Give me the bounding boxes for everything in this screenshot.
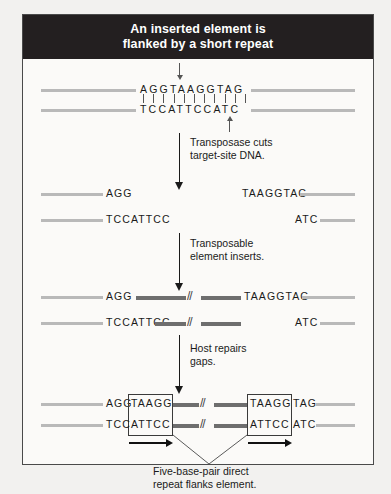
repaired-left-bottom-flank: TCC: [106, 419, 131, 430]
figure-transposon-insertion: An inserted element is flanked by a shor…: [0, 0, 391, 494]
step-3-label-line-2: gaps.: [190, 355, 247, 368]
inserted-left-top-host-dna: [41, 296, 103, 299]
figure-title-line-1: An inserted element is: [130, 22, 266, 37]
transposable-element-bottom-right: [201, 322, 241, 326]
figure-caption-line-2: repeat flanks element.: [153, 478, 256, 491]
step-1-arrow-head: [175, 182, 183, 190]
repaired-element-break-bottom: //: [200, 417, 205, 431]
repaired-left-top-host-dna: [41, 403, 103, 406]
step-2-label: Transposable element inserts.: [190, 237, 264, 262]
cut-left-bottom-host-dna: [41, 219, 103, 222]
bottom-strand-sequence: TCCATTCCATC: [140, 104, 240, 115]
repaired-element-bottom-right: [214, 424, 247, 428]
step-3-arrow-head: [175, 386, 183, 394]
left-direct-repeat-top: TAAGG: [131, 398, 172, 409]
step-2-label-line-2: element inserts.: [190, 250, 264, 263]
transposable-element-top-left: [136, 296, 186, 300]
step-1-label: Transposase cuts target-site DNA.: [190, 136, 272, 161]
transposable-element-break-bottom: //: [187, 315, 192, 329]
figure-caption-line-1: Five-base-pair direct: [153, 465, 256, 478]
repaired-right-bottom-flank: ATC: [293, 419, 317, 430]
repaired-left-bottom-host-dna: [41, 424, 103, 427]
bottom-strand-right-host-dna: [251, 109, 355, 112]
figure-title-line-2: flanked by a short repeat: [123, 37, 273, 52]
right-direct-repeat-top: TAAGG: [250, 398, 291, 409]
transposable-element-top-right: [201, 296, 241, 300]
right-direct-repeat-bottom: ATTCC: [250, 419, 290, 430]
figure-frame: An inserted element is flanked by a shor…: [22, 14, 374, 465]
figure-caption: Five-base-pair direct repeat flanks elem…: [153, 465, 256, 490]
inserted-right-top-sequence: TAAGGTAG: [244, 291, 310, 302]
repaired-element-break-top: //: [200, 396, 205, 410]
left-direct-repeat-bottom: ATTCC: [131, 419, 171, 430]
figure-title-bar: An inserted element is flanked by a shor…: [23, 15, 373, 59]
top-strand-cut-arrow-head: [177, 75, 183, 80]
step-1-arrow-shaft: [179, 133, 180, 184]
cut-left-bottom-sequence: TCCATTCC: [106, 214, 171, 225]
step-3-label-line-1: Host repairs: [190, 342, 247, 355]
transposable-element-bottom-left: [155, 322, 186, 326]
repaired-element-bottom-left: [173, 424, 199, 428]
cut-left-top-host-dna: [41, 193, 103, 196]
bottom-strand-left-host-dna: [41, 109, 136, 112]
repaired-right-top-host-dna: [316, 403, 355, 406]
top-strand-left-host-dna: [41, 89, 136, 92]
bottom-strand-cut-arrow-shaft: [229, 120, 230, 132]
step-2-label-line-1: Transposable: [190, 237, 264, 250]
inserted-right-bottom-host-dna: [320, 322, 355, 325]
cut-right-bottom-host-dna: [320, 219, 355, 222]
step-3-arrow-shaft: [179, 335, 180, 388]
base-pair-ladder: [143, 94, 246, 103]
inserted-right-top-host-dna: [302, 296, 355, 299]
step-2-arrow-shaft: [179, 233, 180, 285]
inserted-right-bottom-sequence: ATC: [295, 317, 319, 328]
step-1-label-line-1: Transposase cuts: [190, 136, 272, 149]
caption-leader-lines: [23, 433, 373, 467]
transposable-element-break-top: //: [187, 289, 192, 303]
inserted-left-top-sequence: AGG: [106, 291, 133, 302]
cut-right-bottom-sequence: ATC: [295, 214, 319, 225]
repaired-right-bottom-host-dna: [316, 424, 355, 427]
step-1-label-line-2: target-site DNA.: [190, 149, 272, 162]
repaired-element-top-right: [214, 403, 247, 407]
cut-right-top-host-dna: [300, 193, 355, 196]
cut-right-top-sequence: TAAGGTAG: [242, 188, 308, 199]
step-3-label: Host repairs gaps.: [190, 342, 247, 367]
top-strand-right-host-dna: [251, 89, 355, 92]
repaired-element-top-left: [173, 403, 199, 407]
inserted-left-bottom-host-dna: [41, 322, 103, 325]
step-2-arrow-head: [175, 283, 183, 291]
cut-left-top-sequence: AGG: [106, 188, 133, 199]
repaired-right-top-flank: TAG: [293, 398, 317, 409]
